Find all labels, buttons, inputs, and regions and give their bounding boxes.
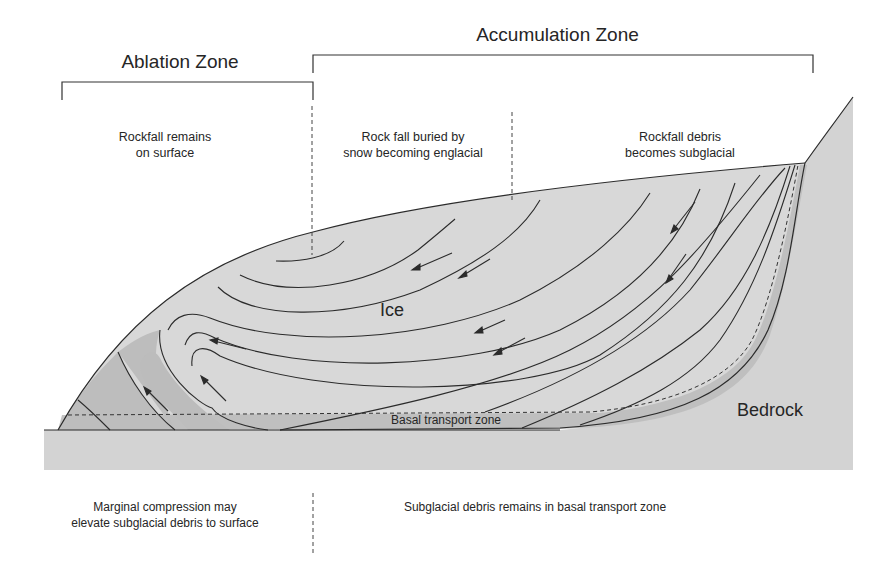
note-rockfall-englacial: Rock fall buried by snow becoming englac… xyxy=(318,129,508,162)
ablation-bracket xyxy=(62,82,313,100)
ice-label: Ice xyxy=(372,299,412,322)
bedrock-area xyxy=(44,430,853,470)
accumulation-bracket xyxy=(313,55,813,73)
basal-transport-zone-label: Basal transport zone xyxy=(372,413,520,429)
note-marginal-compression: Marginal compression may elevate subglac… xyxy=(50,500,280,531)
note-line: elevate subglacial debris to surface xyxy=(50,516,280,532)
bedrock-label: Bedrock xyxy=(725,399,815,422)
note-line: on surface xyxy=(95,145,235,161)
note-rockfall-subglacial: Rockfall debris becomes subglacial xyxy=(600,129,760,162)
note-line: Rockfall remains xyxy=(95,129,235,145)
glacier-cross-section xyxy=(0,0,895,574)
note-line: Rock fall buried by xyxy=(318,129,508,145)
note-rockfall-surface: Rockfall remains on surface xyxy=(95,129,235,162)
note-line: becomes subglacial xyxy=(600,145,760,161)
ablation-zone-title: Ablation Zone xyxy=(110,50,250,75)
note-subglacial-remains: Subglacial debris remains in basal trans… xyxy=(370,500,700,516)
note-line: Rockfall debris xyxy=(600,129,760,145)
accumulation-zone-title: Accumulation Zone xyxy=(465,23,650,48)
note-line: Marginal compression may xyxy=(50,500,280,516)
note-line: Subglacial debris remains in basal trans… xyxy=(370,500,700,516)
note-line: snow becoming englacial xyxy=(318,145,508,161)
